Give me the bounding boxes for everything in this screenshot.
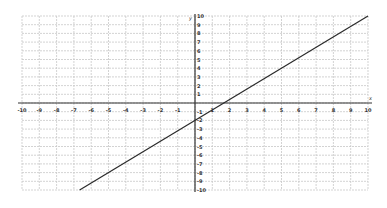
x-tick-label: 8 <box>332 107 336 113</box>
x-tick-label: 6 <box>297 107 301 113</box>
y-tick-label: -3 <box>197 126 203 132</box>
x-tick-label: -3 <box>140 107 146 113</box>
x-tick-label: 5 <box>280 107 284 113</box>
x-tick-label: 9 <box>349 107 353 113</box>
x-axis-label: x <box>368 95 372 101</box>
y-tick-label: 8 <box>197 30 201 36</box>
x-tick-label: -6 <box>88 107 94 113</box>
y-tick-label: -8 <box>197 170 203 176</box>
x-tick-label: -1 <box>175 107 181 113</box>
x-tick-label: 7 <box>314 107 318 113</box>
x-tick-label: -7 <box>71 107 77 113</box>
y-tick-label: 6 <box>197 48 201 54</box>
coordinate-plane: -10-9-8-7-6-5-4-3-2-112345678910-10-9-8-… <box>0 0 387 208</box>
y-tick-label: 9 <box>197 22 201 28</box>
x-tick-label: 3 <box>245 107 249 113</box>
y-tick-label: -7 <box>197 161 203 167</box>
x-tick-label: -2 <box>158 107 164 113</box>
y-tick-label: -4 <box>197 135 203 141</box>
x-tick-label: -9 <box>37 107 43 113</box>
y-tick-label: 10 <box>197 13 204 19</box>
y-tick-label: -5 <box>197 144 203 150</box>
y-tick-label: -1 <box>197 109 203 115</box>
y-tick-label: 1 <box>197 91 201 97</box>
y-tick-label: 7 <box>197 39 201 45</box>
x-tick-label: -4 <box>123 107 129 113</box>
x-tick-label: 2 <box>228 107 232 113</box>
y-axis-label: y <box>188 15 193 22</box>
x-tick-label: -5 <box>106 107 112 113</box>
y-tick-label: 4 <box>197 65 201 71</box>
x-tick-label: -8 <box>54 107 60 113</box>
x-tick-label: 10 <box>365 107 372 113</box>
y-tick-label: 5 <box>197 57 201 63</box>
y-tick-label: 2 <box>197 83 201 89</box>
y-tick-label: -6 <box>197 152 203 158</box>
x-tick-label: -10 <box>17 107 27 113</box>
y-tick-label: -10 <box>197 187 207 193</box>
y-tick-label: 3 <box>197 74 201 80</box>
x-tick-label: 4 <box>262 107 266 113</box>
y-tick-label: -9 <box>197 178 203 184</box>
